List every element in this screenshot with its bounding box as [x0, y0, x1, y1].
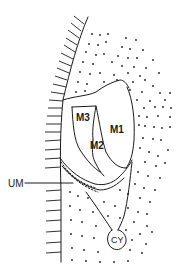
label-m2: M2: [90, 140, 104, 151]
diagram-canvas: M3 M1 M2 UM CY: [0, 0, 186, 269]
cy-duct: [86, 162, 132, 250]
stippled-tissue: [69, 33, 172, 263]
label-m1: M1: [110, 124, 124, 135]
label-um: UM: [8, 178, 24, 189]
organ-outline: [60, 80, 134, 190]
label-cy: CY: [111, 235, 124, 245]
hatched-wall: [45, 16, 88, 262]
label-m3: M3: [76, 112, 90, 123]
